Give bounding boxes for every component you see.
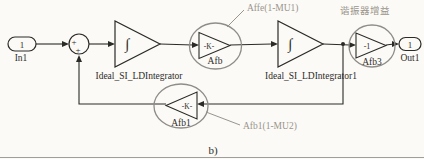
afb-gain-value: -K- bbox=[204, 42, 215, 51]
sum-junction-block: + + bbox=[69, 34, 89, 55]
afb3-gain-triangle bbox=[356, 33, 386, 58]
arrowhead-afb-input bbox=[192, 42, 199, 48]
afb3-gain-value: -1 bbox=[364, 42, 371, 51]
inport-number: 1 bbox=[20, 40, 25, 50]
integrator1-triangle bbox=[115, 21, 160, 67]
inport-label: In1 bbox=[15, 53, 28, 63]
branch-junction-dot bbox=[341, 42, 345, 46]
wire-integrator1-to-afb bbox=[160, 44, 193, 45]
afb1-gain-value: -K- bbox=[182, 102, 193, 111]
outport-number: 1 bbox=[408, 40, 413, 50]
integrator1-label: Ideal_SI_LDIntegrator bbox=[95, 71, 183, 81]
wire-integrator2-to-afb3 bbox=[323, 44, 350, 45]
afb1-formula-annotation: Afb1(1-MU2) bbox=[243, 121, 297, 132]
afb-formula-annotation: Affe(1-MU1) bbox=[247, 3, 299, 14]
wire-afb-to-integrator2 bbox=[230, 44, 272, 45]
sum-plus-bottom: + bbox=[75, 45, 80, 55]
outport-label: Out1 bbox=[401, 53, 420, 63]
arrowhead-integrator2-input bbox=[271, 41, 278, 47]
arrowhead-sum-bottom-input bbox=[76, 55, 82, 62]
arrowhead-afb3-input bbox=[349, 42, 356, 48]
integrator2-label: Ideal_SI_LDIntegrator1 bbox=[265, 71, 357, 81]
gain-afb-block: -K- Afb bbox=[190, 23, 242, 69]
integrator2-triangle bbox=[278, 21, 323, 67]
subfigure-caption: b) bbox=[208, 144, 218, 157]
block-diagram-canvas: 1 In1 + + ∫ Ideal_SI_LDIntegrator -K- Af… bbox=[0, 0, 424, 159]
integrator1-block: ∫ Ideal_SI_LDIntegrator bbox=[95, 21, 183, 81]
inport-in1-block: 1 In1 bbox=[8, 37, 36, 63]
outport-out1-block: 1 Out1 bbox=[399, 38, 421, 64]
afb-label: Afb bbox=[208, 56, 223, 66]
annotations: Affe(1-MU1) 谐振器增益 Afb1(1-MU2) bbox=[206, 3, 390, 132]
afb3-label: Afb3 bbox=[362, 57, 382, 67]
gain-afb3-block: -1 Afb3 bbox=[349, 25, 395, 67]
resonator-gain-annotation: 谐振器增益 bbox=[340, 5, 390, 16]
arrowhead-integrator1-input bbox=[108, 41, 115, 47]
afb-annotation-leader-line bbox=[227, 10, 244, 27]
arrowhead-sum-input bbox=[62, 41, 69, 47]
gain-afb1-block: -K- Afb1 bbox=[154, 84, 208, 128]
figure-b-simulink-diagram: 1 In1 + + ∫ Ideal_SI_LDIntegrator -K- Af… bbox=[0, 0, 424, 159]
afb1-annotation-leader-line bbox=[206, 112, 240, 125]
arrowhead-afb1-input bbox=[197, 101, 204, 107]
afb1-label: Afb1 bbox=[171, 118, 191, 128]
